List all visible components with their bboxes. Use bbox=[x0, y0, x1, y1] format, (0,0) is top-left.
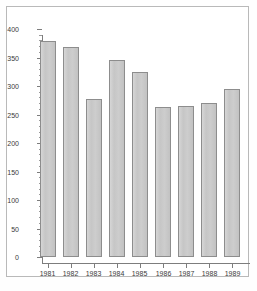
x-axis-tick bbox=[117, 264, 118, 268]
bar bbox=[224, 89, 240, 257]
y-axis-tick-label: 50 bbox=[11, 226, 19, 233]
y-axis-tick-label: 350 bbox=[7, 55, 19, 62]
x-axis-tick-label: 1987 bbox=[175, 270, 198, 278]
x-axis-tick-label: 1988 bbox=[198, 270, 221, 278]
x-axis-tick bbox=[48, 264, 49, 268]
x-axis-tick-label: 1983 bbox=[82, 270, 105, 278]
y-axis-tick-label: 0 bbox=[15, 254, 19, 261]
x-axis-tick-label: 1989 bbox=[221, 270, 244, 278]
bar bbox=[155, 107, 171, 257]
y-axis-tick-label: 150 bbox=[7, 169, 19, 176]
figure-frame: 050100150200250300350400 198119821983198… bbox=[6, 6, 249, 277]
x-axis-tick-label: 1982 bbox=[59, 270, 82, 278]
x-axis-tick bbox=[140, 264, 141, 268]
x-axis-line bbox=[42, 263, 250, 264]
y-axis-tick-label: 400 bbox=[7, 26, 19, 33]
bar bbox=[201, 103, 217, 257]
x-axis-tick bbox=[209, 264, 210, 268]
x-axis-tick-label: 1981 bbox=[36, 270, 59, 278]
y-axis-tick-major bbox=[37, 257, 42, 258]
x-axis-tick bbox=[71, 264, 72, 268]
y-axis-tick-label: 200 bbox=[7, 140, 19, 147]
bar bbox=[63, 47, 79, 257]
y-axis-tick-label: 300 bbox=[7, 83, 19, 90]
y-axis-tick-label: 250 bbox=[7, 112, 19, 119]
y-axis-tick-major bbox=[37, 29, 42, 30]
y-axis-tick-minor bbox=[39, 35, 42, 36]
bar bbox=[132, 72, 148, 257]
x-axis-tick bbox=[232, 264, 233, 268]
x-axis-tick-label: 1984 bbox=[105, 270, 128, 278]
x-axis-tick bbox=[163, 264, 164, 268]
bar bbox=[178, 106, 194, 257]
chart-figure: 050100150200250300350400 198119821983198… bbox=[0, 0, 257, 291]
x-axis-tick bbox=[186, 264, 187, 268]
bar bbox=[40, 41, 56, 257]
bar bbox=[86, 99, 102, 257]
y-axis-tick-label: 100 bbox=[7, 197, 19, 204]
x-axis-tick-label: 1985 bbox=[128, 270, 151, 278]
x-axis-tick bbox=[94, 264, 95, 268]
x-axis-tick-label: 1986 bbox=[152, 270, 175, 278]
bar bbox=[109, 60, 125, 257]
